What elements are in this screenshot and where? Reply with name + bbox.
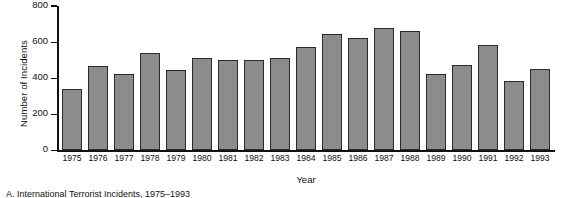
bar-group: 1988 [397, 6, 423, 150]
bar-group: 1992 [501, 6, 527, 150]
bar-group: 1979 [163, 6, 189, 150]
y-tick-200: 200 [51, 114, 57, 115]
x-tick-label-1987: 1987 [374, 153, 393, 163]
bar-chart-figure: Number of Incidents 0200400600800 197519… [0, 0, 565, 198]
x-tick-label-1992: 1992 [504, 153, 523, 163]
y-tick-600: 600 [51, 42, 57, 43]
bar-1989 [426, 74, 446, 151]
x-tick-label-1980: 1980 [192, 153, 211, 163]
bar-group: 1983 [267, 6, 293, 150]
x-tick-label-1990: 1990 [452, 153, 471, 163]
bar-group: 1982 [241, 6, 267, 150]
y-tick-label: 800 [32, 0, 48, 10]
bar-1993 [530, 69, 550, 150]
x-tick-label-1978: 1978 [140, 153, 159, 163]
bar-1992 [504, 81, 524, 150]
x-tick-label-1984: 1984 [296, 153, 315, 163]
x-tick-label-1988: 1988 [400, 153, 419, 163]
x-tick-label-1991: 1991 [478, 153, 497, 163]
x-tick-label-1975: 1975 [62, 153, 81, 163]
x-tick-label-1982: 1982 [244, 153, 263, 163]
y-tick-800: 800 [51, 5, 57, 6]
y-tick-label: 200 [32, 107, 48, 118]
y-tick-label: 600 [32, 35, 48, 46]
bar-group: 1991 [475, 6, 501, 150]
bar-1990 [452, 65, 472, 151]
bar-1976 [88, 66, 108, 151]
bar-1977 [114, 74, 134, 151]
bar-1987 [374, 28, 394, 151]
bar-group: 1990 [449, 6, 475, 150]
bar-group: 1984 [293, 6, 319, 150]
bar-group: 1987 [371, 6, 397, 150]
bar-group: 1978 [137, 6, 163, 150]
x-tick-label-1986: 1986 [348, 153, 367, 163]
x-axis-title: Year [57, 174, 555, 185]
bar-1984 [296, 47, 316, 151]
x-tick-label-1989: 1989 [426, 153, 445, 163]
bar-group: 1986 [345, 6, 371, 150]
x-tick-label-1993: 1993 [530, 153, 549, 163]
x-tick-label-1981: 1981 [218, 153, 237, 163]
y-axis-title: Number of Incidents [18, 9, 29, 159]
x-tick-label-1976: 1976 [88, 153, 107, 163]
x-tick-label-1979: 1979 [166, 153, 185, 163]
bar-1991 [478, 45, 498, 151]
y-tick-label: 0 [43, 143, 48, 154]
bar-series: 1975197619771978197919801981198219831984… [59, 6, 553, 150]
bar-1975 [62, 89, 82, 150]
y-tick-label: 400 [32, 71, 48, 82]
plot-area: 0200400600800 19751976197719781979198019… [57, 6, 555, 152]
bar-1979 [166, 70, 186, 150]
x-axis-line [57, 150, 555, 152]
bar-group: 1977 [111, 6, 137, 150]
bar-group: 1993 [527, 6, 553, 150]
bar-1985 [322, 34, 342, 150]
figure-caption: A. International Terrorist Incidents, 19… [6, 189, 190, 198]
bar-1983 [270, 58, 290, 150]
x-tick-label-1977: 1977 [114, 153, 133, 163]
bar-group: 1985 [319, 6, 345, 150]
y-tick-0: 0 [51, 150, 57, 151]
x-tick-label-1985: 1985 [322, 153, 341, 163]
bar-group: 1989 [423, 6, 449, 150]
bar-1978 [140, 53, 160, 150]
bar-1986 [348, 38, 368, 151]
y-tick-400: 400 [51, 78, 57, 79]
x-tick-label-1983: 1983 [270, 153, 289, 163]
bar-group: 1980 [189, 6, 215, 150]
bar-group: 1981 [215, 6, 241, 150]
bar-1988 [400, 31, 420, 150]
bar-group: 1975 [59, 6, 85, 150]
bar-1980 [192, 58, 212, 150]
bar-1982 [244, 60, 264, 150]
bar-group: 1976 [85, 6, 111, 150]
bar-1981 [218, 60, 238, 150]
